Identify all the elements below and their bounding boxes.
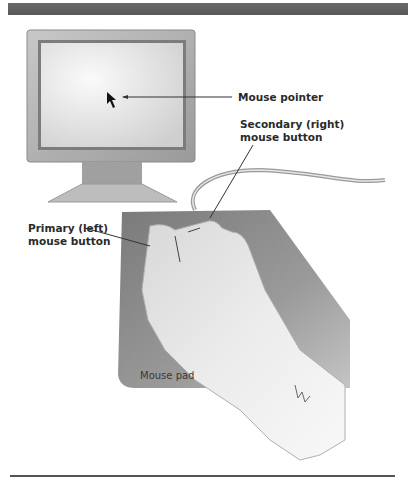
label-secondary-line1: Secondary (right): [240, 118, 344, 131]
label-mouse-pointer: Mouse pointer: [238, 91, 323, 104]
label-secondary-line2: mouse button: [240, 131, 344, 144]
label-secondary-button: Secondary (right) mouse button: [240, 118, 344, 144]
label-primary-button: Primary (left) mouse button: [28, 222, 110, 248]
label-mouse-pad: Mouse pad: [140, 370, 194, 381]
monitor: [27, 30, 195, 202]
bottom-rule: [10, 475, 395, 477]
monitor-screen: [41, 43, 183, 147]
label-primary-line2: mouse button: [28, 235, 110, 248]
secondary-leader-line: [210, 145, 253, 218]
label-primary-line1: Primary (left): [28, 222, 110, 235]
